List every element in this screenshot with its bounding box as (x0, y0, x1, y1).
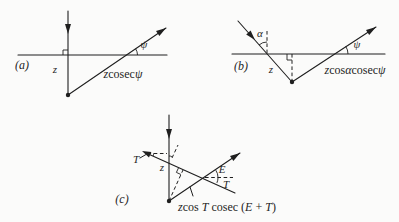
panel-b-tag: (b) (234, 59, 248, 73)
slant-ray (68, 28, 166, 95)
dip-angle-label: T (133, 153, 140, 165)
psi-angle-arc (136, 49, 138, 55)
panel-c: (c) z T E T zcos T cosec (E + T) (115, 115, 276, 214)
source-point (290, 80, 294, 84)
source-point (66, 93, 70, 97)
ray-path-diagram: (a) z ψ zcosecψ (b) α z ψ zcosαcosecψ (0, 0, 399, 222)
right-angle-mark (63, 50, 68, 55)
path-length-label: zcos T cosec (E + T) (177, 200, 276, 214)
source-point (167, 199, 171, 203)
path-length-label: zcosαcosecψ (323, 63, 386, 77)
dip-angle-label-right: T (223, 178, 230, 190)
path-length-label: zcosecψ (103, 67, 143, 81)
up-arrowhead (156, 28, 166, 36)
figure-page: (a) z ψ zcosecψ (b) α z ψ zcosαcosecψ (0, 0, 399, 222)
panel-b: (b) α z ψ zcosαcosecψ (232, 21, 386, 84)
dip-angle-arc (153, 154, 154, 157)
psi-angle-arc (346, 46, 348, 54)
down-arrowhead (65, 24, 71, 34)
right-angle-mark (287, 54, 292, 60)
panel-c-tag: (c) (115, 192, 128, 206)
alpha-angle-label: α (257, 27, 263, 39)
dip-label-leader (140, 155, 146, 159)
emergent-arrowhead (230, 153, 240, 161)
normal-reference-dash (172, 145, 178, 158)
depth-label: z (52, 63, 58, 75)
psi-angle-label: ψ (354, 38, 361, 50)
down-arrowhead (166, 129, 172, 139)
depth-label: z (159, 161, 165, 173)
alpha-angle-arc (259, 42, 267, 45)
panel-a: (a) z ψ zcosecψ (15, 11, 167, 97)
panel-a-tag: (a) (15, 58, 29, 72)
path-label-leader (190, 187, 193, 196)
dip-angle-arc-right (217, 178, 218, 183)
emergent-arrowhead (366, 27, 376, 35)
depth-label: z (268, 63, 274, 75)
psi-angle-label: ψ (141, 38, 148, 50)
emergence-angle-label: E (218, 163, 226, 175)
